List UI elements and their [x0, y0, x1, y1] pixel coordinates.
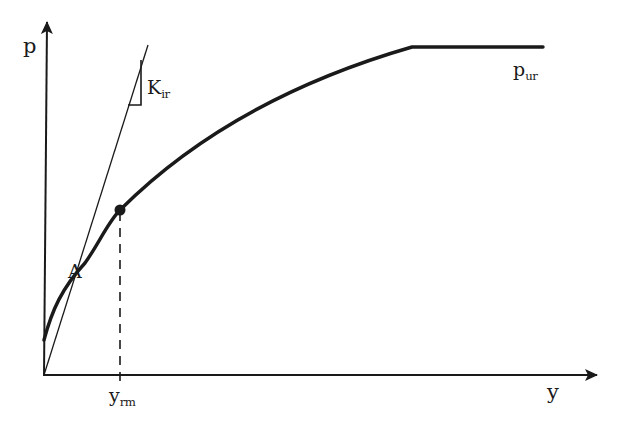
yrm-sub: rm — [120, 395, 136, 409]
pur-label: pur — [513, 60, 537, 83]
slope-triangle — [128, 60, 141, 105]
point-a-label: A — [68, 262, 82, 281]
yrm-point-marker — [115, 205, 126, 216]
kir-main: K — [147, 76, 161, 98]
initial-tangent-line — [44, 45, 148, 375]
p-y-curve — [44, 47, 543, 340]
pur-sub: ur — [525, 69, 537, 83]
kir-label: Kir — [147, 78, 170, 101]
yrm-main: y — [109, 384, 120, 406]
p-axis — [44, 22, 47, 376]
pur-main: p — [513, 58, 525, 80]
y-axis-label: y — [547, 382, 559, 403]
p-axis-label: p — [23, 36, 36, 57]
kir-sub: ir — [161, 87, 169, 101]
yrm-label: yrm — [109, 386, 136, 409]
